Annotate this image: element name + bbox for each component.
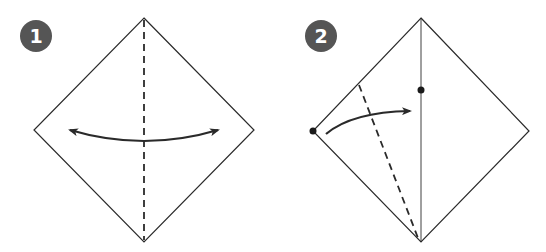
step-2-badge: 2 (305, 20, 337, 52)
step-2: 2 (305, 18, 529, 242)
target-point-dot (418, 87, 425, 94)
origami-diagram: 1 2 (0, 0, 546, 252)
valley-fold-line (359, 85, 418, 238)
corner-point-dot (310, 128, 317, 135)
step-1: 1 (20, 18, 254, 242)
step-number: 1 (29, 25, 42, 47)
step-1-badge: 1 (20, 20, 52, 52)
step-number: 2 (314, 25, 327, 47)
fold-arrow-icon (326, 111, 410, 134)
